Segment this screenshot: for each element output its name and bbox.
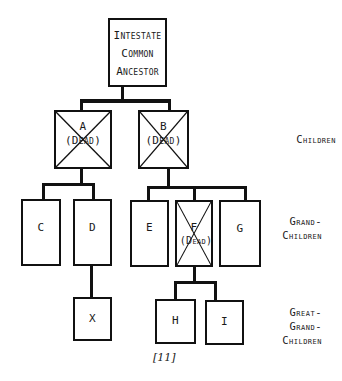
connector-to-H [174,281,177,301]
node-X: X [73,297,112,341]
root-line-1: Intestate [110,29,165,42]
generation-label-children: Children [268,132,336,146]
node-F-label: F [177,221,211,234]
connector-root-down [121,86,124,100]
node-D-label: D [75,221,110,234]
connector-A-bar [42,183,94,186]
generation-great-grandchildren-line-3: Children [268,333,322,347]
connector-D-to-X [90,265,93,298]
node-A-label: A [56,120,110,133]
node-H: H [155,299,196,344]
connector-F-bar [174,281,216,284]
connector-to-C [42,183,45,200]
connector-A-down [80,168,83,184]
connector-to-I [214,281,217,301]
generation-children-line-1: Children [268,132,336,146]
node-F-note: (Dead) [173,235,219,246]
root-line-3: Ancestor [110,65,165,78]
connector-B-down [167,168,170,187]
node-E: E [130,200,169,267]
node-A: A (Dead) [54,110,112,169]
generation-label-grandchildren: Grand- Children [268,214,322,242]
node-A-note: (Dead) [56,134,110,147]
generation-grandchildren-line-1: Grand- [268,214,322,228]
connector-to-D [92,183,95,200]
generation-great-grandchildren-line-1: Great- [268,305,322,319]
root-line-2: Common [110,47,165,60]
node-D: D [73,199,112,266]
node-I: I [205,300,244,345]
node-B-note: (Dead) [140,134,187,147]
node-G: G [219,200,261,267]
node-I-label: I [207,315,242,328]
node-H-label: H [157,314,194,327]
connector-to-F [193,186,196,200]
node-F: F (Dead) [175,200,213,267]
connector-B-bar [147,186,247,189]
node-B: B (Dead) [138,110,189,169]
connector-root-bar [80,99,170,103]
figure-caption: [11] [153,351,176,364]
node-C: C [21,199,61,266]
node-X-label: X [75,312,110,325]
node-E-label: E [132,221,167,234]
node-G-label: G [221,222,259,235]
connector-to-G [244,186,247,200]
connector-to-E [147,186,150,200]
node-C-label: C [23,221,59,234]
node-B-label: B [140,120,187,133]
root-ancestor-box: Intestate Common Ancestor [108,18,167,87]
generation-label-great-grandchildren: Great- Grand- Children [268,305,322,347]
generation-great-grandchildren-line-2: Grand- [268,319,322,333]
generation-grandchildren-line-2: Children [268,228,322,242]
